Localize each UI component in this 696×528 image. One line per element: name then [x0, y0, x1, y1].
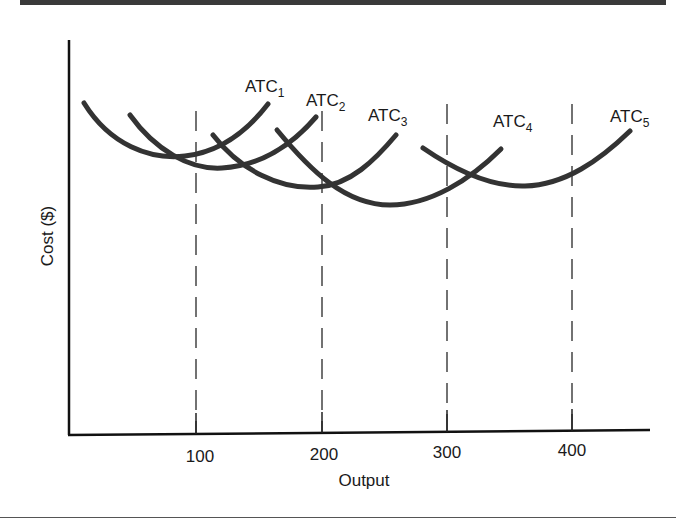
- label-atc2: ATC2: [306, 91, 346, 114]
- label-atc5: ATC5: [610, 107, 650, 130]
- chart-canvas: 100 200 300 400 Output Cost ($) ATC1 ATC…: [0, 0, 696, 528]
- bottom-border-rule: [0, 517, 676, 518]
- atc-curves: [84, 103, 630, 205]
- label-atc4: ATC4: [493, 112, 533, 135]
- reference-lines: [196, 104, 572, 434]
- x-tick-label-200: 200: [310, 445, 338, 464]
- x-tick-label-300: 300: [433, 443, 461, 462]
- x-tick-label-400: 400: [558, 441, 586, 460]
- y-axis-label: Cost ($): [38, 206, 57, 266]
- x-axis: [68, 430, 650, 435]
- label-atc1: ATC1: [245, 77, 285, 100]
- axes: [68, 40, 650, 435]
- curve-atc1: [84, 103, 268, 157]
- label-atc3: ATC3: [368, 106, 408, 129]
- x-axis-label: Output: [338, 471, 389, 490]
- x-tick-label-100: 100: [186, 447, 214, 466]
- curve-atc5: [423, 131, 630, 186]
